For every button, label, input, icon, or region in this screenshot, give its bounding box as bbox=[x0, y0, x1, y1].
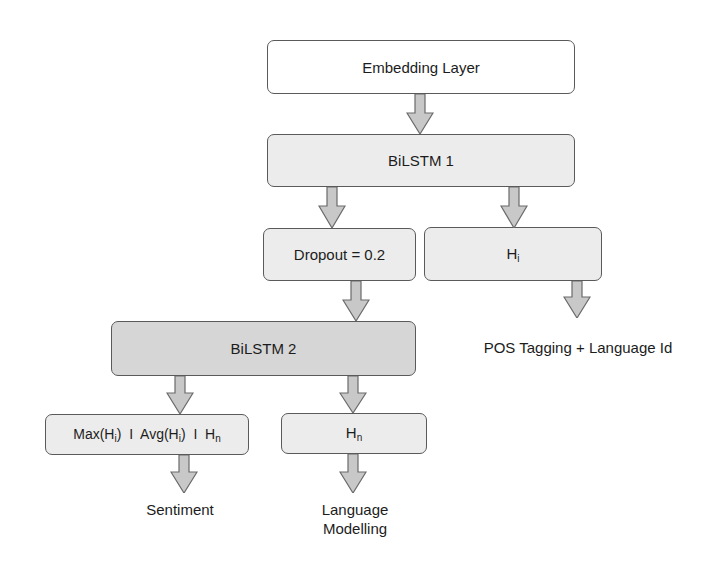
dropout-label: Dropout = 0.2 bbox=[294, 246, 385, 263]
bilstm1-label: BiLSTM 1 bbox=[388, 152, 454, 169]
language-modelling-output-label: Language Modelling bbox=[300, 500, 410, 538]
bilstm2-label: BiLSTM 2 bbox=[231, 340, 297, 357]
pooling-node: Max(Hi) I Avg(Hi) I Hn bbox=[45, 414, 249, 455]
hn-label: Hn bbox=[346, 424, 362, 443]
arrow-bilstm2-to-hn-icon bbox=[339, 376, 367, 413]
pos-tagging-output-label: POS Tagging + Language Id bbox=[460, 338, 696, 357]
arrow-dropout-to-bilstm2-icon bbox=[342, 281, 370, 321]
hi-node: Hi bbox=[424, 227, 602, 281]
hn-node: Hn bbox=[281, 413, 427, 454]
embedding-layer-label: Embedding Layer bbox=[362, 59, 480, 76]
arrow-pooling-to-sentiment-icon bbox=[170, 455, 198, 493]
arrow-embedding-to-bilstm1-icon bbox=[406, 94, 434, 134]
arrow-bilstm1-to-dropout-icon bbox=[318, 187, 346, 228]
arrow-bilstm1-to-hi-icon bbox=[500, 187, 528, 228]
arrow-bilstm2-to-pooling-icon bbox=[166, 376, 194, 414]
pooling-label: Max(Hi) I Avg(Hi) I Hn bbox=[73, 426, 221, 444]
dropout-node: Dropout = 0.2 bbox=[263, 228, 416, 281]
hi-label: Hi bbox=[506, 245, 519, 264]
bilstm2-node: BiLSTM 2 bbox=[111, 321, 416, 376]
embedding-layer-node: Embedding Layer bbox=[267, 40, 575, 94]
arrow-hi-to-pos-icon bbox=[563, 281, 591, 318]
bilstm1-node: BiLSTM 1 bbox=[267, 134, 575, 187]
sentiment-output-label: Sentiment bbox=[130, 500, 230, 519]
arrow-hn-to-language-modelling-icon bbox=[339, 454, 367, 493]
